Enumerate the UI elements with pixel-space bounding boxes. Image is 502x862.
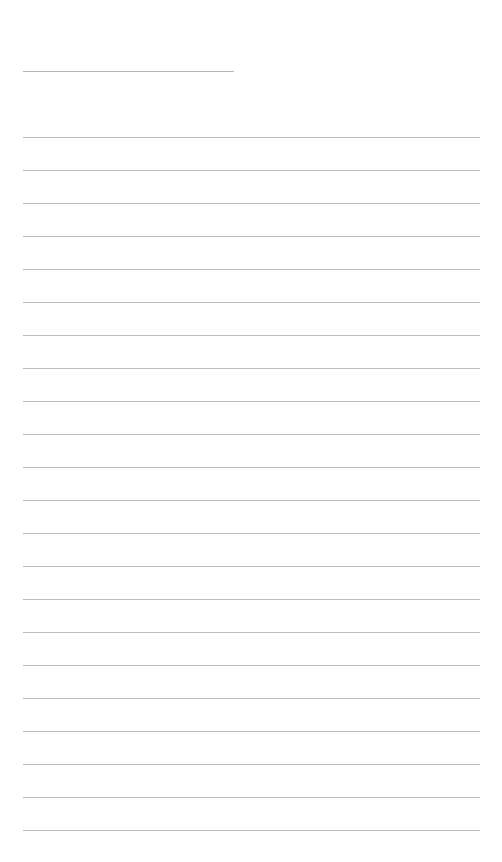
ruled-line xyxy=(23,830,480,831)
title-underline xyxy=(23,71,234,72)
lined-paper-page xyxy=(0,0,502,862)
ruled-line xyxy=(23,302,480,303)
ruled-line xyxy=(23,467,480,468)
ruled-line xyxy=(23,170,480,171)
ruled-line xyxy=(23,797,480,798)
ruled-line xyxy=(23,632,480,633)
ruled-line xyxy=(23,335,480,336)
ruled-line xyxy=(23,533,480,534)
ruled-line xyxy=(23,665,480,666)
ruled-line xyxy=(23,764,480,765)
ruled-line xyxy=(23,599,480,600)
ruled-line xyxy=(23,203,480,204)
ruled-line xyxy=(23,401,480,402)
ruled-line xyxy=(23,434,480,435)
ruled-line xyxy=(23,137,480,138)
ruled-line xyxy=(23,500,480,501)
ruled-line xyxy=(23,269,480,270)
ruled-line xyxy=(23,698,480,699)
ruled-line xyxy=(23,368,480,369)
ruled-line xyxy=(23,731,480,732)
ruled-line xyxy=(23,236,480,237)
ruled-line xyxy=(23,566,480,567)
